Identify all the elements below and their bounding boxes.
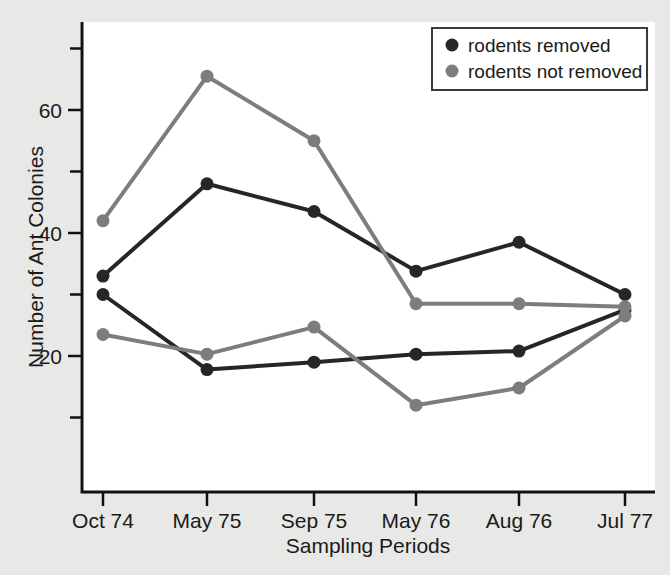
legend-marker-icon [446, 39, 459, 52]
legend-marker-icon [446, 65, 459, 78]
data-point [201, 70, 214, 83]
x-axis-tick-labels: Oct 74May 75Sep 75May 76Aug 76Jul 77 [72, 509, 653, 532]
data-point [513, 345, 526, 358]
data-point [619, 310, 632, 323]
data-point [513, 297, 526, 310]
data-point [619, 288, 632, 301]
data-point [410, 265, 423, 278]
x-tick-label: May 76 [382, 509, 451, 532]
legend-label: rodents removed [468, 35, 611, 56]
series-0 [97, 177, 632, 301]
data-point [308, 205, 321, 218]
chart-legend: rodents removedrodents not removed [432, 28, 647, 90]
series-1 [97, 288, 632, 376]
data-point [513, 381, 526, 394]
data-point [410, 399, 423, 412]
x-tick-label: May 75 [173, 509, 242, 532]
series-2 [97, 70, 632, 314]
series-line [103, 76, 625, 307]
data-point [308, 134, 321, 147]
x-tick-label: Aug 76 [486, 509, 553, 532]
y-tick-label: 60 [39, 99, 62, 122]
data-point [308, 321, 321, 334]
x-axis-title: Sampling Periods [286, 534, 451, 557]
ant-colonies-line-chart: 204060 Oct 74May 75Sep 75May 76Aug 76Jul… [0, 0, 670, 575]
legend-label: rodents not removed [468, 61, 642, 82]
data-point [97, 288, 110, 301]
y-axis-title: Number of Ant Colonies [24, 146, 47, 368]
data-point [201, 177, 214, 190]
data-series-group [97, 70, 632, 412]
data-point [201, 348, 214, 361]
axis-lines [82, 22, 655, 492]
data-point [308, 356, 321, 369]
x-axis-ticks [103, 492, 625, 506]
data-point [410, 348, 423, 361]
y-axis-ticks [68, 49, 82, 418]
data-point [97, 328, 110, 341]
x-tick-label: Jul 77 [597, 509, 653, 532]
x-tick-label: Oct 74 [72, 509, 134, 532]
series-3 [97, 310, 632, 412]
series-line [103, 184, 625, 295]
series-line [103, 316, 625, 405]
data-point [513, 236, 526, 249]
data-point [410, 297, 423, 310]
data-point [201, 363, 214, 376]
chart-figure: 204060 Oct 74May 75Sep 75May 76Aug 76Jul… [0, 0, 670, 575]
data-point [97, 214, 110, 227]
x-tick-label: Sep 75 [281, 509, 348, 532]
data-point [97, 270, 110, 283]
